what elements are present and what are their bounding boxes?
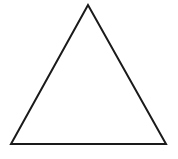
triangle-shape	[11, 5, 166, 144]
figure-canvas: Triangle An unfilled black-outlined isos…	[0, 0, 178, 159]
triangle-svg: Triangle	[0, 0, 178, 159]
